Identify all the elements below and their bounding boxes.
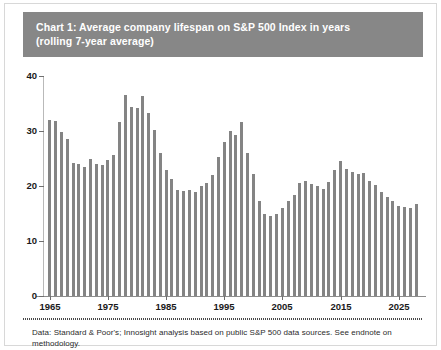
bar (258, 201, 261, 296)
bar (130, 107, 133, 296)
bar (72, 163, 75, 296)
y-tick-label: 0 (3, 291, 37, 300)
bar (403, 207, 406, 296)
y-tick-label: 40 (3, 71, 37, 80)
bar (141, 96, 144, 296)
x-tick-label: 1965 (30, 301, 70, 312)
bar (83, 167, 86, 296)
bar (246, 153, 249, 296)
bar (374, 185, 377, 296)
bar (176, 190, 179, 296)
x-tick-mark (50, 296, 51, 300)
bar (66, 139, 69, 296)
bar (333, 170, 336, 297)
x-axis-line (36, 296, 426, 297)
bar (415, 204, 418, 296)
bar (310, 184, 313, 296)
bar (106, 160, 109, 296)
bar (89, 159, 92, 297)
bar (397, 206, 400, 296)
bar (205, 183, 208, 296)
bar (240, 122, 243, 296)
bar (357, 174, 360, 296)
bar (281, 208, 284, 296)
bar (101, 165, 104, 296)
plot-region: 010203040 1965197519851995200520152025 (0, 0, 441, 350)
x-tick-label: 1985 (146, 301, 186, 312)
bar (217, 157, 220, 296)
x-tick-mark (282, 296, 283, 300)
x-tick-mark (224, 296, 225, 300)
bar (136, 108, 139, 296)
x-tick-mark (166, 296, 167, 300)
bar (351, 172, 354, 296)
bar (60, 132, 63, 296)
bar (165, 170, 168, 297)
bar (345, 169, 348, 296)
bar (211, 175, 214, 296)
bars-container (44, 76, 422, 296)
bar (368, 181, 371, 297)
bar (118, 122, 121, 296)
x-tick-label: 2005 (262, 301, 302, 312)
x-tick-label: 2025 (379, 301, 419, 312)
bar (298, 183, 301, 296)
bar (223, 142, 226, 296)
bar (170, 179, 173, 296)
bar (362, 173, 365, 296)
bar (304, 181, 307, 297)
bar (275, 214, 278, 297)
chart-figure: Chart 1: Average company lifespan on S&P… (0, 0, 441, 350)
bar (124, 95, 127, 296)
x-tick-mark (399, 296, 400, 300)
bar (182, 191, 185, 296)
bar (234, 135, 237, 296)
bar (409, 208, 412, 296)
bar (287, 201, 290, 296)
x-tick-mark (341, 296, 342, 300)
bar (200, 186, 203, 296)
y-tick-label: 30 (3, 126, 37, 135)
bar (112, 155, 115, 296)
y-tick-label: 20 (3, 181, 37, 190)
bar (54, 121, 57, 296)
bar (188, 190, 191, 296)
bar (380, 192, 383, 297)
bar (95, 164, 98, 296)
x-tick-mark (108, 296, 109, 300)
bar (293, 195, 296, 296)
bar (252, 174, 255, 296)
bar (229, 131, 232, 296)
bar (159, 153, 162, 296)
footer-divider (23, 318, 423, 320)
y-tick-mark (39, 296, 44, 297)
bar (269, 216, 272, 296)
bar (339, 161, 342, 296)
bar (147, 113, 150, 296)
x-tick-label: 1995 (204, 301, 244, 312)
bar (391, 201, 394, 296)
source-note: Data: Standard & Poor's; Innosight analy… (32, 327, 428, 349)
bar (322, 189, 325, 296)
bar (327, 182, 330, 296)
bar (386, 197, 389, 296)
x-tick-label: 2015 (321, 301, 361, 312)
bar (316, 186, 319, 296)
y-tick-label: 10 (3, 236, 37, 245)
bar (263, 214, 266, 297)
bar (48, 120, 51, 296)
bar (194, 192, 197, 297)
x-tick-label: 1975 (88, 301, 128, 312)
bar (153, 130, 156, 296)
bar (77, 164, 80, 296)
